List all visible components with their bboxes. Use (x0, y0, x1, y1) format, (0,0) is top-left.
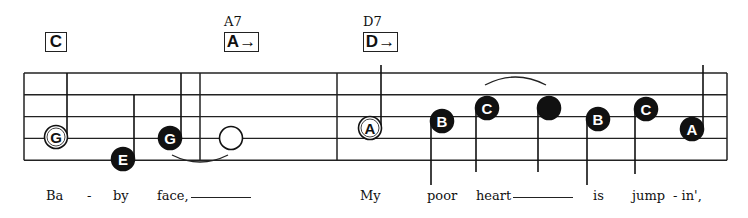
lyric-syllable: - (87, 188, 91, 203)
note-G: G (45, 73, 68, 149)
note-B: B (431, 110, 454, 186)
lyric-syllable: face, (157, 188, 251, 203)
lyric-syllable: by (113, 188, 129, 203)
lyric-syllable: poor (427, 188, 457, 203)
note-letter: G (164, 130, 176, 147)
chord-box-d: D→ (363, 32, 398, 52)
note-letter: C (482, 100, 493, 117)
chord-box-c: C (45, 32, 67, 52)
note-letter: B (437, 113, 448, 130)
note-letter: A (687, 121, 698, 138)
note-letter: A (365, 120, 376, 137)
note-blank (220, 127, 243, 150)
note-E: E (112, 95, 135, 171)
note-C: C (635, 98, 658, 175)
note-A: A (359, 65, 382, 140)
note-letter: E (118, 151, 128, 168)
note-letter: G (50, 129, 62, 146)
lyric-syllable: heart (476, 188, 573, 203)
note-B: B (587, 108, 610, 186)
note-letter: C (641, 101, 652, 118)
chord-name: D7 (363, 14, 382, 29)
lyric-syllable: My (360, 188, 381, 203)
note-G: G (159, 73, 182, 150)
note-letter: B (593, 111, 604, 128)
lyric-extender (191, 197, 251, 198)
chord-box-a: A→ (224, 32, 259, 52)
lyric-syllable: - in', (673, 188, 702, 203)
lyric-extender (513, 197, 573, 198)
lyric-syllable: jump (632, 188, 665, 203)
tie (485, 77, 546, 85)
note-A: A (681, 65, 704, 141)
chord-name: A7 (224, 14, 242, 29)
lyric-syllable: is (593, 188, 604, 203)
lyric-syllable: Ba (46, 188, 63, 203)
